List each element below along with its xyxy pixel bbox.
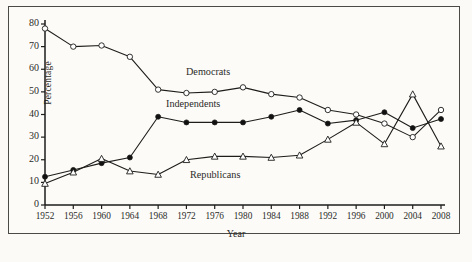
data-point-democrats-1988 xyxy=(297,95,302,100)
data-point-democrats-2008 xyxy=(438,107,443,112)
data-point-independents-2000 xyxy=(382,110,387,115)
data-point-democrats-1952 xyxy=(42,26,47,31)
data-point-independents-1984 xyxy=(269,114,274,119)
data-point-independents-1976 xyxy=(212,120,217,125)
series-label-democrats: Democrats xyxy=(186,66,230,77)
data-point-democrats-1972 xyxy=(184,90,189,95)
data-point-independents-1964 xyxy=(127,155,132,160)
data-point-democrats-2004 xyxy=(410,134,415,139)
data-point-republicans-1952 xyxy=(42,180,49,186)
line-chart-plot xyxy=(0,0,472,262)
data-point-democrats-1984 xyxy=(269,91,274,96)
data-point-independents-1972 xyxy=(184,120,189,125)
data-point-democrats-1976 xyxy=(212,89,217,94)
data-point-republicans-1992 xyxy=(325,136,332,142)
data-point-democrats-1956 xyxy=(71,44,76,49)
data-point-democrats-2000 xyxy=(382,121,387,126)
data-point-democrats-1960 xyxy=(99,43,104,48)
chart-page: Percentage Year 01020304050607080 195219… xyxy=(0,0,472,262)
data-point-democrats-1980 xyxy=(240,85,245,90)
data-point-independents-1988 xyxy=(297,107,302,112)
series-label-independents: Independents xyxy=(166,98,220,109)
data-point-independents-1968 xyxy=(156,114,161,119)
data-point-republicans-1960 xyxy=(98,155,105,161)
series-line-republicans xyxy=(45,94,441,183)
data-point-republicans-2004 xyxy=(409,91,416,97)
data-point-independents-2008 xyxy=(439,117,444,122)
data-point-independents-1992 xyxy=(325,121,330,126)
data-point-democrats-1968 xyxy=(155,87,160,92)
data-point-independents-2004 xyxy=(410,126,415,131)
data-point-democrats-1992 xyxy=(325,107,330,112)
series-label-republicans: Republicans xyxy=(190,169,240,180)
data-point-democrats-1964 xyxy=(127,54,132,59)
data-point-democrats-1996 xyxy=(353,112,358,117)
data-point-independents-1952 xyxy=(43,174,48,179)
data-point-independents-1980 xyxy=(241,120,246,125)
data-point-republicans-2008 xyxy=(438,143,445,149)
